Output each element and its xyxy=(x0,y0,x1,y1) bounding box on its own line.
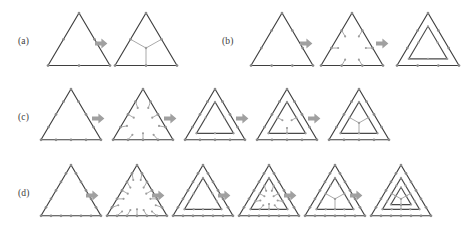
diagram-row: (c) xyxy=(0,84,476,160)
arrow-right-icon xyxy=(92,113,105,124)
row-label: (b) xyxy=(222,36,234,46)
diagram-row: (d) xyxy=(0,160,476,235)
arrow-right-icon xyxy=(86,190,99,201)
arrow-right-icon xyxy=(164,113,177,124)
row-label: (d) xyxy=(18,188,30,198)
triangle-stage xyxy=(326,84,392,143)
arrow-right-icon xyxy=(152,190,165,201)
arrow-right-icon xyxy=(236,113,249,124)
triangle-stage xyxy=(368,160,434,219)
arrow-right-icon xyxy=(376,38,389,49)
diagram-row: (b) xyxy=(0,8,476,84)
triangle-stage xyxy=(394,8,462,69)
arrow-right-icon xyxy=(300,38,313,49)
arrow-right-icon xyxy=(218,190,231,201)
arrow-right-icon xyxy=(308,113,321,124)
arrow-right-icon xyxy=(284,190,297,201)
row-label: (c) xyxy=(18,112,29,122)
triangle-subdivision-figure: (a)(b)(c)(d) xyxy=(0,0,476,235)
arrow-right-icon xyxy=(350,190,363,201)
